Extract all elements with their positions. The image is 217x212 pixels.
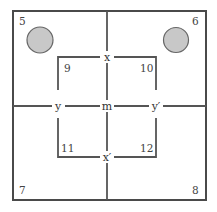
top-left-circle (27, 27, 53, 53)
corner-label-5: 5 (19, 15, 26, 27)
top-right-circle (164, 28, 189, 53)
inner-label-12: 12 (140, 142, 153, 154)
point-label-y-prime: y′ (151, 100, 161, 113)
corner-label-8: 8 (192, 184, 199, 196)
corner-label-6: 6 (192, 15, 199, 27)
corner-label-7: 7 (19, 184, 26, 196)
point-label-x: x (104, 51, 111, 64)
inner-label-10: 10 (140, 62, 153, 74)
point-label-m: m (102, 100, 113, 113)
inner-label-11: 11 (61, 142, 74, 154)
quadrant-diagram: 5 6 7 8 9 10 11 12 x x′ y y′ m (0, 0, 217, 212)
point-label-x-prime: x′ (103, 151, 112, 164)
inner-label-9: 9 (64, 62, 71, 74)
point-label-y: y (54, 100, 62, 113)
